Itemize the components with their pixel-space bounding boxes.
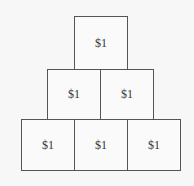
pyramid-cell-row2-1: $1 bbox=[47, 69, 101, 120]
pyramid-cell-row3-3: $1 bbox=[127, 119, 181, 171]
cell-value: $1 bbox=[95, 138, 107, 153]
cell-value: $1 bbox=[42, 138, 54, 153]
cell-value: $1 bbox=[121, 87, 133, 102]
cell-value: $1 bbox=[148, 138, 160, 153]
cell-value: $1 bbox=[68, 87, 80, 102]
pyramid-cell-row2-2: $1 bbox=[100, 69, 154, 120]
pyramid-cell-row3-1: $1 bbox=[21, 119, 75, 171]
pyramid-cell-row3-2: $1 bbox=[74, 119, 128, 171]
cell-value: $1 bbox=[95, 36, 107, 51]
pyramid-cell-row1-1: $1 bbox=[74, 16, 128, 70]
